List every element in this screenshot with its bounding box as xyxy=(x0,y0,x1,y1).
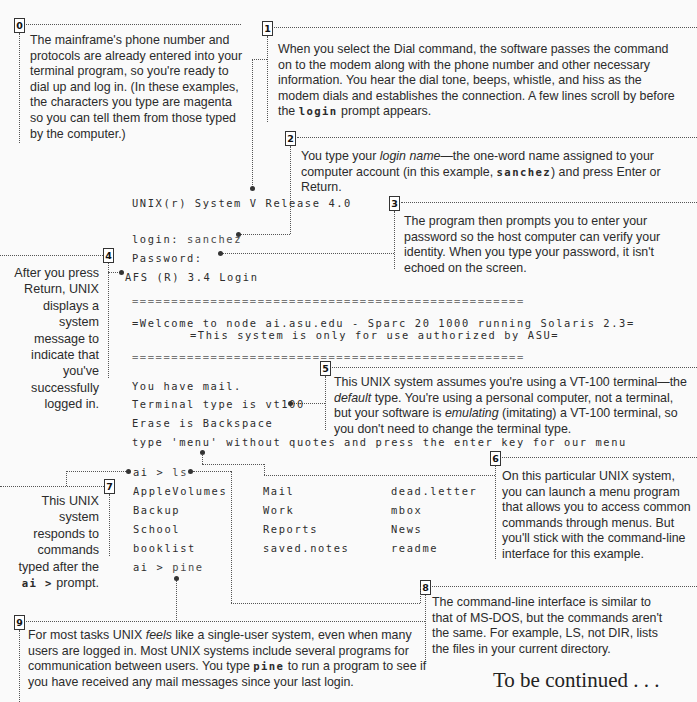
connector-line xyxy=(19,33,20,143)
connector-dot xyxy=(119,270,124,275)
callout-number-5: 5 xyxy=(320,361,331,376)
connector-line xyxy=(231,603,420,604)
connector-line xyxy=(290,146,291,234)
file-item: booklist xyxy=(133,542,196,554)
terminal-welcome-line: =Welcome to node ai.asu.edu - Sparc 20 1… xyxy=(132,317,635,329)
terminal-pine-line: ai > pine xyxy=(133,561,204,573)
connector-line xyxy=(274,27,697,28)
callout-number-2: 2 xyxy=(285,131,296,146)
callout-0-text: The mainframe's phone number and protoco… xyxy=(30,33,245,142)
connector-line xyxy=(222,253,394,254)
connector-line xyxy=(231,471,232,603)
file-item: News xyxy=(391,523,422,535)
callout-4-text: After you press Return, UNIX displays a … xyxy=(8,265,99,413)
connector-line xyxy=(202,464,264,465)
connector-line xyxy=(297,137,697,138)
file-item: Work xyxy=(263,504,294,516)
connector-line xyxy=(325,376,326,430)
file-item: dead.letter xyxy=(391,485,477,497)
typed-command-pine: pine xyxy=(172,561,203,573)
connector-line xyxy=(264,464,265,475)
connector-line xyxy=(502,457,697,458)
file-item: Backup xyxy=(133,504,180,516)
callout-3-text: The program then prompts you to enter yo… xyxy=(404,214,697,276)
file-item: mbox xyxy=(391,504,422,516)
file-item: readme xyxy=(391,542,438,554)
connector-line xyxy=(0,486,104,487)
connector-line xyxy=(109,494,110,556)
connector-line xyxy=(267,36,268,122)
callout-9-text: For most tasks UNIX feels like a single-… xyxy=(28,628,428,690)
typed-login-name: sanchez xyxy=(187,233,242,245)
connector-line xyxy=(420,587,421,603)
terminal-mail-line: You have mail. xyxy=(132,380,242,392)
file-item: AppleVolumes xyxy=(133,485,227,497)
callout-8-text: The command-line interface is similar to… xyxy=(432,595,672,657)
connector-line xyxy=(26,24,241,25)
callout-5-text: This UNIX system assumes you're using a … xyxy=(334,375,689,437)
file-item: Mail xyxy=(263,485,294,497)
terminal-login-line: login: sanchez xyxy=(132,233,242,245)
terminal-termtype-line: Terminal type is vt100 xyxy=(132,398,305,410)
callout-number-7: 7 xyxy=(104,479,115,494)
connector-line xyxy=(26,621,425,622)
callout-number-0: 0 xyxy=(14,18,25,33)
connector-line xyxy=(252,59,267,60)
file-item: School xyxy=(133,523,180,535)
connector-line xyxy=(240,234,290,235)
terminal-password-line: Password: xyxy=(132,252,203,264)
connector-line xyxy=(193,471,231,472)
connector-line xyxy=(19,630,20,702)
terminal-release-line: UNIX(r) System V Release 4.0 xyxy=(132,197,352,209)
connector-dot xyxy=(250,186,255,191)
callout-1-text: When you select the Dial command, the so… xyxy=(278,42,683,120)
connector-dot xyxy=(218,251,223,256)
terminal-ls-line: ai > ls xyxy=(133,466,188,478)
connector-line xyxy=(432,586,697,587)
connector-line xyxy=(176,581,177,622)
connector-line xyxy=(332,367,697,368)
callout-number-3: 3 xyxy=(389,196,400,211)
connector-line xyxy=(264,475,495,476)
connector-line xyxy=(66,471,126,472)
callout-7-text: This UNIX system responds to commands ty… xyxy=(8,493,99,591)
terminal-menu-hint-line: type 'menu' without quotes and press the… xyxy=(132,436,627,448)
connector-line xyxy=(394,211,395,269)
connector-line xyxy=(66,471,67,486)
terminal-afs-line: AFS (R) 3.4 Login xyxy=(125,271,259,283)
callout-6-text: On this particular UNIX system, you can … xyxy=(502,469,692,563)
typed-command-ls: ls xyxy=(172,466,188,478)
file-item: saved.notes xyxy=(263,542,349,554)
callout-2-text: You type your login name—the one-word na… xyxy=(301,149,697,196)
callout-number-9: 9 xyxy=(14,615,25,630)
callout-number-8: 8 xyxy=(420,580,431,595)
terminal-authorized-line: =This system is only for use authorized … xyxy=(190,329,559,341)
terminal-rule: ========================================… xyxy=(132,295,525,307)
callout-number-6: 6 xyxy=(490,451,501,466)
connector-line xyxy=(401,202,697,203)
connector-line xyxy=(202,454,203,464)
terminal-erase-line: Erase is Backspace xyxy=(132,417,273,429)
callout-number-4: 4 xyxy=(103,248,114,263)
connector-line xyxy=(252,59,253,187)
connector-line xyxy=(0,255,103,256)
connector-line xyxy=(495,466,496,559)
connector-line xyxy=(108,263,109,378)
connector-dot xyxy=(126,469,131,474)
callout-number-1: 1 xyxy=(262,21,273,36)
file-item: Reports xyxy=(263,523,318,535)
to-be-continued: To be continued . . . xyxy=(493,668,660,693)
